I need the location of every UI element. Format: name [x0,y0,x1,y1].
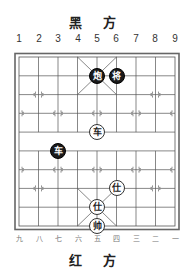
black-general-piece[interactable]: 将 [109,68,125,84]
piece-label: 车 [93,127,102,137]
piece-label: 帅 [93,221,102,231]
col-number: 五 [90,233,104,243]
col-number: 七 [51,233,65,243]
bottom-column-numbers: 九 八 七 六 五 四 三 二 一 [0,233,193,245]
black-chariot-piece[interactable]: 车 [50,143,66,159]
col-number: 四 [109,233,123,243]
black-cannon-piece[interactable]: 炮 [89,68,105,84]
red-advisor-piece[interactable]: 仕 [109,180,125,196]
piece-label: 仕 [93,202,102,212]
red-side-label: 红 方 [0,250,193,269]
col-number: 三 [129,233,143,243]
red-general-piece[interactable]: 帅 [89,218,105,234]
piece-label: 将 [112,71,121,81]
col-number: 一 [168,233,182,243]
col-number: 八 [32,233,46,243]
col-number: 二 [148,233,162,243]
red-chariot-piece[interactable]: 车 [89,124,105,140]
col-number: 六 [71,233,85,243]
piece-label: 车 [54,146,63,156]
piece-label: 炮 [93,71,102,81]
col-number: 九 [12,233,26,243]
piece-label: 仕 [112,183,121,193]
